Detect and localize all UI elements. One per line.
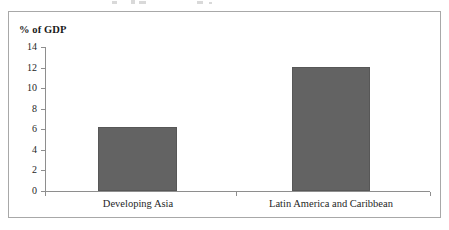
scan-fleck (131, 0, 135, 4)
y-axis-line (45, 47, 46, 192)
x-axis-line (45, 191, 430, 192)
y-axis-tick (41, 170, 45, 171)
y-axis-tick (41, 88, 45, 89)
scan-artifact-strip (0, 0, 449, 9)
x-axis-tick (45, 192, 46, 196)
y-axis-tick-label: 6 (11, 124, 37, 134)
y-axis-tick-label: 0 (11, 186, 37, 196)
x-axis-tick (430, 192, 431, 196)
y-axis-tick-label: 8 (11, 104, 37, 114)
figure-frame: % of GDP 02468101214 Developing AsiaLati… (8, 11, 441, 218)
y-axis-tick (41, 129, 45, 130)
y-axis-tick-label: 2 (11, 165, 37, 175)
x-axis-tick (236, 192, 237, 196)
scan-fleck (209, 2, 212, 4)
y-axis-tick-label: 4 (11, 145, 37, 155)
y-axis-tick-label: 12 (11, 63, 37, 73)
y-axis-tick (41, 68, 45, 69)
y-axis-tick (41, 109, 45, 110)
x-axis-category-label: Latin America and Caribbean (260, 198, 402, 210)
x-axis-category-label: Developing Asia (79, 198, 197, 210)
y-axis-tick-label: 10 (11, 83, 37, 93)
scan-fleck (112, 1, 117, 4)
y-axis-tick (41, 47, 45, 48)
y-axis-tick (41, 150, 45, 151)
scan-fleck (139, 1, 146, 4)
scan-fleck (197, 1, 203, 4)
bar-chart-plot-area: 02468101214 Developing AsiaLatin America… (9, 12, 442, 219)
bar (98, 127, 177, 191)
y-axis-tick-label: 14 (11, 42, 37, 52)
bar (292, 67, 370, 191)
